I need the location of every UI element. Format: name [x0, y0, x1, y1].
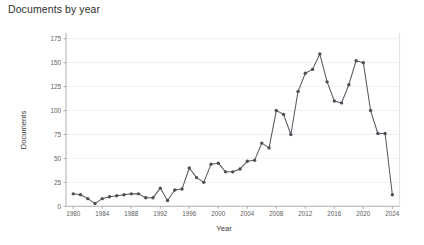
- x-tick-label: 2004: [240, 210, 255, 217]
- data-point: [354, 59, 357, 62]
- data-point: [231, 170, 234, 173]
- data-point: [369, 109, 372, 112]
- data-point: [282, 113, 285, 116]
- data-point: [79, 193, 82, 196]
- documents-by-year-line-chart: 1980198419881992199620002004200820122016…: [0, 0, 424, 245]
- data-point: [267, 146, 270, 149]
- x-tick-label: 2020: [356, 210, 371, 217]
- data-point: [333, 99, 336, 102]
- data-point: [224, 170, 227, 173]
- data-point: [253, 159, 256, 162]
- y-tick-label: 100: [50, 107, 61, 114]
- data-point: [304, 72, 307, 75]
- data-point: [376, 132, 379, 135]
- data-point: [391, 193, 394, 196]
- x-tick-label: 1992: [153, 210, 168, 217]
- data-point: [340, 101, 343, 104]
- data-point: [101, 197, 104, 200]
- x-tick-label: 1984: [95, 210, 110, 217]
- data-point: [325, 80, 328, 83]
- data-point: [137, 192, 140, 195]
- x-axis-ticks: 1980198419881992199620002004200820122016…: [66, 206, 400, 217]
- x-tick-label: 2000: [211, 210, 226, 217]
- data-point: [144, 196, 147, 199]
- y-tick-label: 25: [54, 179, 62, 186]
- data-point: [130, 192, 133, 195]
- y-axis-label: Documents: [19, 111, 28, 150]
- data-point: [238, 167, 241, 170]
- data-point: [296, 90, 299, 93]
- data-point: [72, 192, 75, 195]
- y-tick-label: 125: [50, 83, 61, 90]
- y-tick-label: 175: [50, 35, 61, 42]
- gridlines: [66, 39, 400, 183]
- y-tick-label: 150: [50, 59, 61, 66]
- x-axis-label: Year: [216, 224, 232, 233]
- data-point: [311, 68, 314, 71]
- data-point: [86, 197, 89, 200]
- x-tick-label: 1980: [66, 210, 81, 217]
- data-point: [108, 195, 111, 198]
- data-point: [151, 196, 154, 199]
- y-tick-label: 75: [54, 131, 62, 138]
- data-point: [188, 166, 191, 169]
- data-point: [209, 162, 212, 165]
- x-tick-label: 1988: [124, 210, 139, 217]
- x-tick-label: 2024: [385, 210, 400, 217]
- data-point: [122, 193, 125, 196]
- data-point: [362, 61, 365, 64]
- data-point: [159, 186, 162, 189]
- x-tick-label: 2012: [298, 210, 313, 217]
- data-point: [260, 141, 263, 144]
- data-point: [93, 202, 96, 205]
- data-point: [289, 133, 292, 136]
- data-point: [195, 176, 198, 179]
- data-point: [180, 187, 183, 190]
- x-tick-label: 2016: [327, 210, 342, 217]
- y-axis-ticks: 0255075100125150175: [50, 33, 66, 210]
- data-point: [166, 199, 169, 202]
- chart-container: Documents by year 1980198419881992199620…: [0, 0, 424, 245]
- data-point: [246, 160, 249, 163]
- y-tick-label: 0: [57, 203, 61, 210]
- data-point: [318, 52, 321, 55]
- data-point: [383, 132, 386, 135]
- data-point: [115, 194, 118, 197]
- data-point: [217, 162, 220, 165]
- y-tick-label: 50: [54, 155, 62, 162]
- x-tick-label: 1996: [182, 210, 197, 217]
- data-point: [275, 109, 278, 112]
- documents-series-line: [73, 54, 392, 203]
- data-point: [347, 83, 350, 86]
- x-tick-label: 2008: [269, 210, 284, 217]
- data-point: [202, 181, 205, 184]
- data-point: [173, 188, 176, 191]
